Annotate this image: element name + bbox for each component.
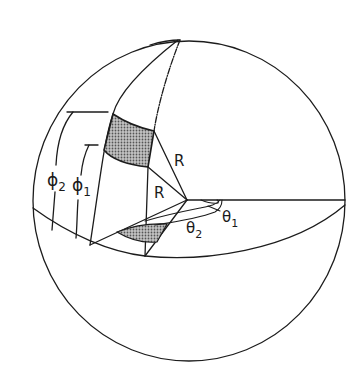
theta-2-arc bbox=[145, 200, 220, 221]
label-radius-upper: R bbox=[174, 152, 184, 170]
meridian-inner bbox=[154, 40, 180, 131]
lower-shaded-patch bbox=[117, 224, 167, 242]
label-theta-2: θ2 bbox=[186, 219, 202, 241]
label-phi-1: ϕ1 bbox=[72, 175, 91, 199]
label-theta-1: θ1 bbox=[222, 208, 238, 230]
label-phi-2: ϕ2 bbox=[47, 170, 66, 194]
sphere-outline bbox=[33, 41, 345, 361]
label-radius-lower: R bbox=[154, 184, 164, 202]
theta-1-leader bbox=[208, 206, 220, 211]
upper-shaded-patch bbox=[104, 114, 154, 167]
sphere-diagram: ϕ2 ϕ1 R R θ1 θ2 bbox=[0, 0, 364, 383]
